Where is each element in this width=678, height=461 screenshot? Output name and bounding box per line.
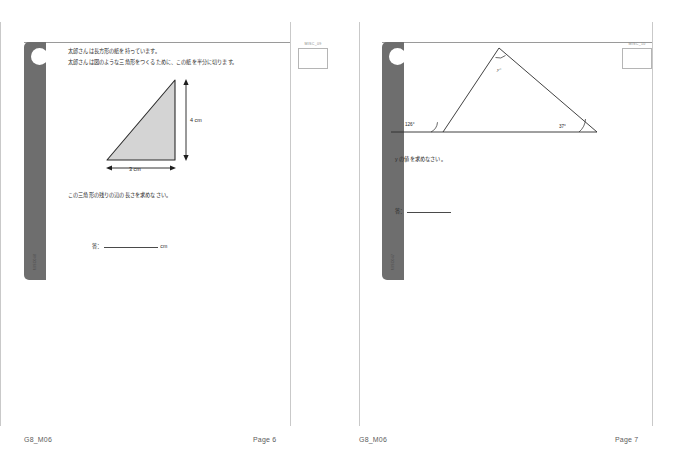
page-6-footer-right: Page 6 [253,436,276,443]
arrow-right-icon [170,165,176,170]
worksheet-spread: MISC048 MISC_09 太郎さんは長方形の紙を持っています。 太郎さんは… [0,0,678,461]
arrow-down-icon [183,155,188,161]
page-7-binder-id: MISC047 [391,238,395,286]
page-7-code-box-group: MISC_10 [622,42,652,69]
page-6-stem-line-1: 太郎さんは長方形の紙を持っています。 [68,46,160,57]
page-7: MISC047 MISC_10 126° y° 37° y [339,0,678,461]
page-6-left-edge [0,22,1,426]
page-7-code-box[interactable] [622,48,652,69]
page-6-code-box-group: MISC_09 [298,42,328,69]
triangle-left-side [443,48,499,132]
page-7-answer-label: 答： [395,207,405,214]
page-7-right-angle-label: 37° [559,124,566,129]
arrow-left-icon [106,165,112,170]
page-6-base-label: 3 cm [129,166,141,172]
page-6-answer-unit: cm [160,243,167,249]
page-7-answer-input[interactable] [407,212,451,213]
page-6-right-triangle-figure: 4 cm 3 cm [95,72,205,176]
page-6-header-rule [24,42,290,43]
page-7-left-edge [359,22,360,426]
page-7-footer-left: G8_M06 [359,436,387,443]
right-triangle-shape [107,80,175,160]
page-6-prompt: この三角形の残りの辺の長さを求めなさい。 [68,191,171,198]
page-6-binder-id: MISC048 [33,238,37,286]
page-6-answer-input[interactable] [104,247,158,248]
page-7-right-edge [652,22,653,426]
page-6: MISC048 MISC_09 太郎さんは長方形の紙を持っています。 太郎さんは… [0,0,339,461]
page-6-stem-line-2: 太郎さんは図のような三角形をつくるために、この紙を半分に切ります。 [68,57,237,68]
page-6-vertical-label: 4 cm [190,117,202,123]
page-6-footer-left: G8_M06 [24,436,52,443]
page-7-triangle-figure: 126° y° 37° [391,30,621,150]
page-6-binder-strip: MISC048 [24,42,46,280]
arrow-up-icon [183,79,188,85]
left-exterior-angle-arc [431,122,438,132]
page-6-right-edge [290,22,291,426]
page-6-answer-row: 答： cm [92,242,168,249]
binder-hole-icon [31,48,48,65]
page-7-left-exterior-label: 126° [405,122,415,127]
triangle-right-side [499,48,597,132]
page-7-answer-row: 答： [395,207,453,214]
page-7-code-label: MISC_10 [622,42,652,46]
page-7-footer-right: Page 7 [615,436,638,443]
page-6-code-label: MISC_09 [298,42,328,46]
page-6-code-box[interactable] [298,48,328,69]
page-7-apex-label: y° [496,67,501,72]
page-7-prompt: y の値を求めなさい。 [395,155,446,162]
page-6-answer-label: 答： [92,242,102,249]
apex-angle-arc [496,56,506,59]
